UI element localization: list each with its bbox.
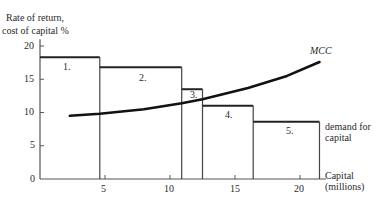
x-tick-10: 10	[164, 183, 174, 194]
axes	[40, 39, 326, 179]
y-tick-0: 0	[30, 173, 35, 184]
mcc-label: MCC	[310, 45, 332, 56]
y-tick-5: 5	[30, 139, 35, 150]
y-axis-label-line2: cost of capital %	[2, 25, 69, 36]
bar-label-4: 4.	[225, 109, 233, 120]
x-axis-label-line1: Capital	[325, 170, 354, 181]
x-axis-label-line2: (millions)	[325, 181, 364, 192]
bar-label-2: 2.	[139, 72, 147, 83]
x-tick-5: 5	[101, 183, 106, 194]
demand-label-line2: capital	[325, 132, 352, 143]
y-axis-label-line1: Rate of return,	[6, 12, 64, 23]
y-tick-15: 15	[24, 73, 34, 84]
demand-steps	[40, 57, 320, 179]
bar-label-3: 3.	[190, 89, 198, 100]
y-tick-10: 10	[24, 106, 34, 117]
demand-label-line1: demand for	[325, 121, 371, 132]
x-tick-15: 15	[230, 183, 240, 194]
bar-label-5: 5.	[286, 125, 294, 136]
x-tick-20: 20	[294, 183, 304, 194]
bar-label-1: 1.	[63, 61, 71, 72]
y-tick-20: 20	[24, 40, 34, 51]
